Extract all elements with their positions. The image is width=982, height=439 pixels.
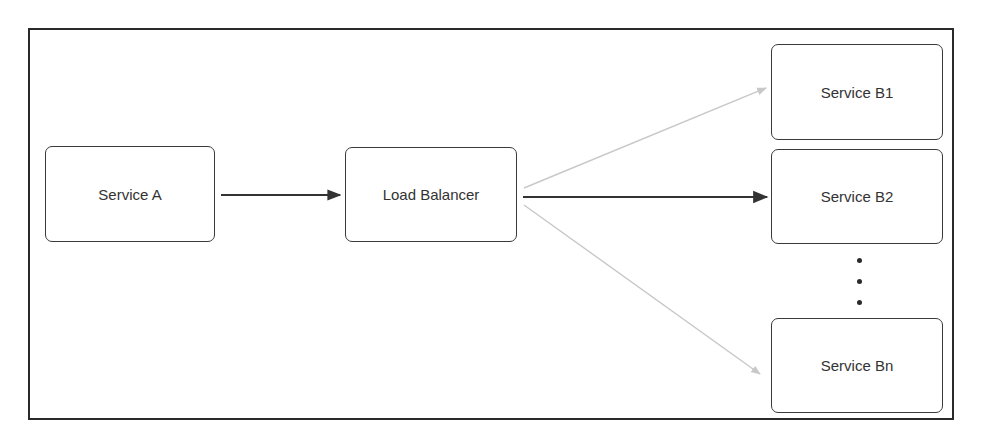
node-service-a: Service A	[45, 146, 215, 242]
node-label: Service Bn	[821, 357, 894, 374]
node-service-bn: Service Bn	[771, 318, 943, 413]
ellipsis-dot	[857, 279, 862, 284]
ellipsis-dot	[857, 300, 862, 305]
node-load-balancer: Load Balancer	[345, 147, 517, 242]
ellipsis-dot	[857, 258, 862, 263]
node-label: Load Balancer	[383, 186, 480, 203]
node-label: Service B1	[821, 84, 894, 101]
node-service-b2: Service B2	[771, 149, 943, 244]
node-label: Service A	[98, 186, 161, 203]
node-service-b1: Service B1	[771, 44, 943, 140]
node-label: Service B2	[821, 188, 894, 205]
